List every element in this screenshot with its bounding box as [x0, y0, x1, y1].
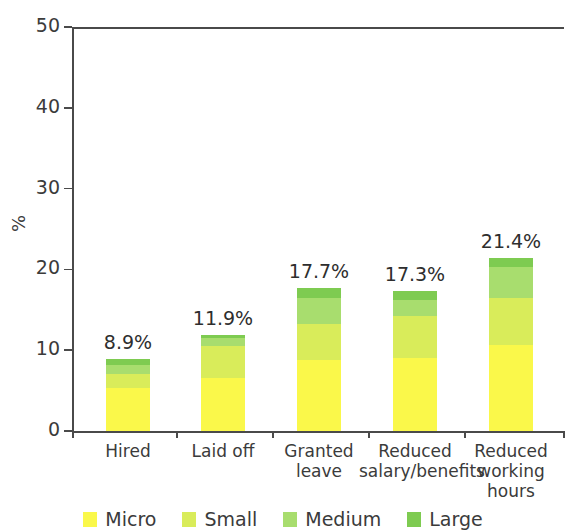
y-tick-mark — [64, 107, 72, 109]
bar-stack[interactable] — [393, 291, 437, 431]
y-tick-mark — [64, 349, 72, 351]
y-tick-label: 20 — [0, 256, 60, 278]
y-axis-line — [72, 27, 74, 432]
legend-label: Micro — [105, 508, 156, 530]
legend-item-small[interactable]: Small — [182, 508, 257, 530]
bar-segment-medium[interactable] — [393, 300, 437, 316]
bar-segment-micro[interactable] — [393, 358, 437, 431]
stacked-bar-chart: 01020304050 % 8.9%11.9%17.7%17.3%21.4% H… — [0, 0, 566, 532]
bar-value-label: 21.4% — [456, 230, 566, 252]
bar-segment-micro[interactable] — [297, 360, 341, 431]
bar-segment-small[interactable] — [393, 316, 437, 358]
legend-label: Small — [204, 508, 257, 530]
x-tick-mark — [464, 431, 466, 438]
y-tick-label: 10 — [0, 337, 60, 359]
legend-item-micro[interactable]: Micro — [83, 508, 156, 530]
bar-segment-micro[interactable] — [489, 345, 533, 431]
bar-value-label: 11.9% — [168, 307, 278, 329]
legend-swatch-icon — [283, 512, 297, 527]
x-label-line: hours — [455, 481, 566, 501]
bar-segment-medium[interactable] — [297, 298, 341, 324]
bar-segment-micro[interactable] — [201, 378, 245, 431]
bar-segment-small[interactable] — [106, 374, 150, 388]
bar-segment-medium[interactable] — [489, 267, 533, 298]
x-tick-mark — [563, 431, 565, 438]
x-label-line: working — [455, 461, 566, 481]
bar-segment-large[interactable] — [393, 291, 437, 300]
legend: MicroSmallMediumLarge — [0, 506, 566, 532]
y-tick-mark — [64, 430, 72, 432]
legend-swatch-icon — [83, 512, 97, 527]
legend-swatch-icon — [407, 512, 421, 527]
x-axis-line — [72, 431, 564, 433]
bar-segment-micro[interactable] — [106, 388, 150, 431]
y-axis-title: % — [8, 215, 29, 232]
bar-segment-medium[interactable] — [106, 365, 150, 375]
bar-value-label: 17.3% — [360, 263, 470, 285]
y-tick-mark — [64, 269, 72, 271]
legend-item-large[interactable]: Large — [407, 508, 482, 530]
y-tick-mark — [64, 188, 72, 190]
bar-segment-large[interactable] — [297, 288, 341, 298]
bar-segment-small[interactable] — [297, 324, 341, 360]
bar-stack[interactable] — [106, 359, 150, 431]
y-tick-label: 50 — [0, 14, 60, 36]
legend-item-medium[interactable]: Medium — [283, 508, 381, 530]
x-tick-mark — [176, 431, 178, 438]
y-tick-label: 30 — [0, 176, 60, 198]
bar-segment-small[interactable] — [201, 346, 245, 378]
legend-label: Large — [429, 508, 482, 530]
bar-segment-medium[interactable] — [201, 338, 245, 346]
y-tick-mark — [64, 26, 72, 28]
plot-top-border — [72, 27, 564, 29]
bar-stack[interactable] — [297, 288, 341, 431]
legend-swatch-icon — [182, 512, 196, 527]
x-axis-label: Reducedworkinghours — [455, 441, 566, 501]
bar-stack[interactable] — [489, 258, 533, 431]
x-tick-mark — [368, 431, 370, 438]
bar-stack[interactable] — [201, 335, 245, 431]
y-tick-label: 0 — [0, 418, 60, 440]
y-tick-label: 40 — [0, 95, 60, 117]
bar-value-label: 8.9% — [73, 331, 183, 353]
bar-segment-large[interactable] — [489, 258, 533, 267]
x-tick-mark — [72, 431, 74, 438]
bar-value-label: 17.7% — [264, 260, 374, 282]
x-tick-mark — [272, 431, 274, 438]
x-label-line: Reduced — [455, 441, 566, 461]
bar-segment-small[interactable] — [489, 298, 533, 346]
legend-label: Medium — [305, 508, 381, 530]
